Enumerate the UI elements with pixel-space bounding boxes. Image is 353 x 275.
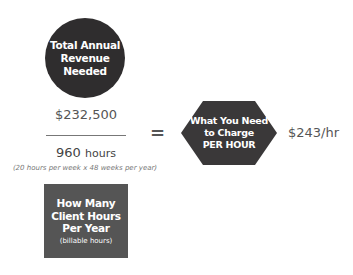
- equals-sign: =: [150, 122, 165, 143]
- fraction-divider: [46, 135, 126, 136]
- hours-box: How Many Client Hours Per Year (billable…: [44, 184, 128, 258]
- hourly-rate-result: $243/hr: [288, 125, 339, 140]
- hours-box-line: Per Year: [51, 222, 120, 235]
- revenue-circle: Total Annual Revenue Needed: [45, 18, 125, 98]
- hours-note: (20 hours per week x 48 weeks per year): [10, 164, 160, 172]
- hexagon-line: to Charge: [190, 127, 268, 139]
- revenue-circle-line: Total Annual: [50, 39, 120, 52]
- hours-box-line: How Many: [51, 197, 120, 210]
- hours-value: 960 hours: [40, 145, 132, 160]
- hours-box-sub: (billable hours): [60, 237, 113, 245]
- hours-unit: hours: [85, 147, 116, 160]
- hexagon-label: What You Need to Charge PER HOUR: [181, 101, 277, 165]
- revenue-circle-line: Revenue: [50, 52, 120, 65]
- hexagon-line: PER HOUR: [190, 139, 268, 151]
- revenue-circle-line: Needed: [50, 65, 120, 78]
- hexagon-line: What You Need: [190, 115, 268, 127]
- hours-box-line: Client Hours: [51, 210, 120, 223]
- hours-number: 960: [56, 145, 81, 160]
- revenue-value: $232,500: [45, 107, 127, 122]
